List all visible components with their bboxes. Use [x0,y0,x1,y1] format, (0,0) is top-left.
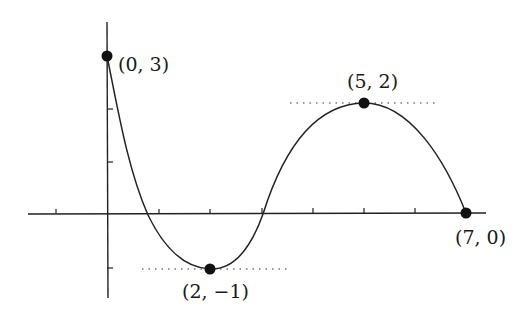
label-point-5-2: (5, 2) [347,70,398,92]
point-5-2 [359,98,370,109]
point-2-neg1 [205,264,216,275]
function-curve [107,56,466,269]
graph-canvas: (0, 3) (2, −1) (5, 2) (7, 0) [0,0,532,319]
label-point-7-0: (7, 0) [455,226,506,248]
x-axis [28,213,486,214]
point-7-0 [461,208,472,219]
point-0-3 [102,51,113,62]
label-point-2-neg1: (2, −1) [182,280,249,302]
label-point-0-3: (0, 3) [118,53,169,75]
